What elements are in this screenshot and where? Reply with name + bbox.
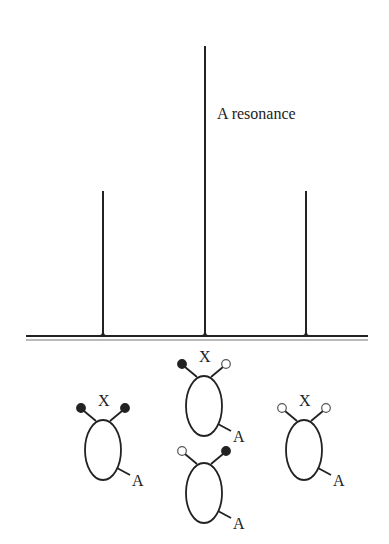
molecule-ring <box>286 420 322 480</box>
molecule-ring <box>85 420 121 480</box>
a-nucleus-label: A <box>233 515 245 532</box>
peak-line-1 <box>202 46 208 336</box>
spin-up-dot-icon <box>222 447 231 456</box>
molecule-right: AX <box>278 392 345 489</box>
spin-up-dot-icon <box>77 404 86 413</box>
molecule-ring <box>186 463 222 523</box>
spectrum-plot <box>26 46 368 340</box>
molecule-ring <box>186 376 222 436</box>
molecule-left: AX <box>77 392 144 489</box>
nmr-diagram: A resonance AXAXAAX <box>0 0 389 544</box>
peak-line-2 <box>303 191 309 336</box>
a-resonance-label: A resonance <box>217 105 296 122</box>
a-nucleus-label: A <box>333 472 345 489</box>
a-nucleus-label: A <box>132 472 144 489</box>
spin-up-dot-icon <box>121 404 130 413</box>
spin-up-dot-icon <box>178 360 187 369</box>
spin-down-dot-icon <box>322 404 331 413</box>
x-nucleus-label: X <box>299 392 311 409</box>
spin-down-dot-icon <box>278 404 287 413</box>
molecule-center-top: AX <box>178 348 245 445</box>
peak-line-0 <box>100 191 106 336</box>
x-nucleus-label: X <box>98 392 110 409</box>
a-nucleus-label: A <box>233 428 245 445</box>
molecule-center-bottom: A <box>178 447 245 532</box>
spin-down-dot-icon <box>222 360 231 369</box>
x-nucleus-label: X <box>199 348 211 365</box>
molecule-group: AXAXAAX <box>77 348 345 532</box>
spin-down-dot-icon <box>178 447 187 456</box>
